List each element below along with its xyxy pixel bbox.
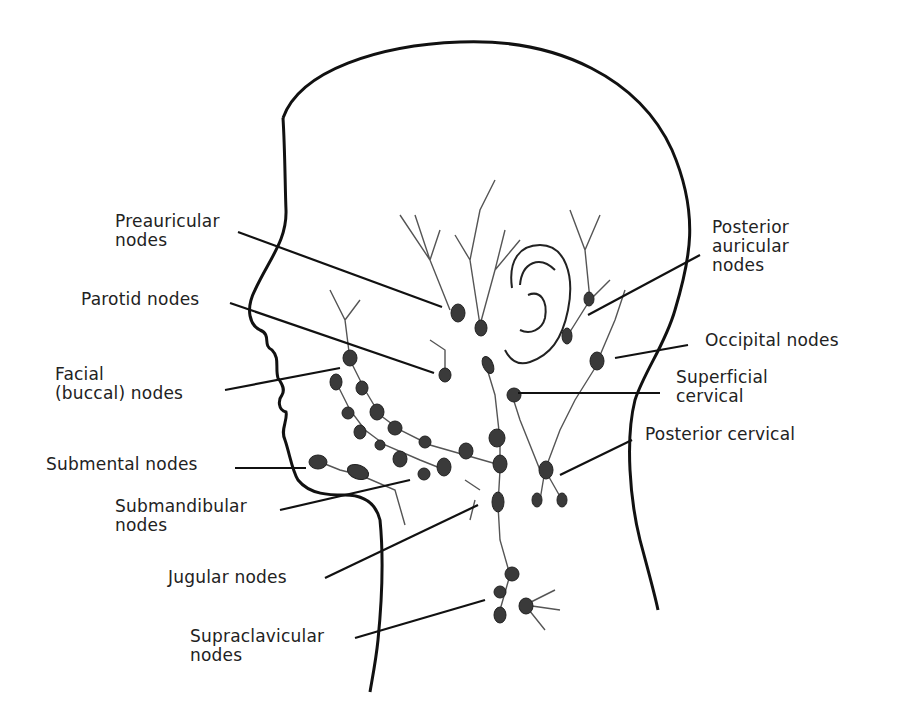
face-outline (250, 118, 383, 692)
label-facial-buccal-nodes: Facial (buccal) nodes (55, 365, 183, 403)
lymph-nodes (309, 292, 604, 623)
head-neck-illustration (0, 0, 903, 718)
label-submental-nodes: Submental nodes (46, 455, 198, 474)
label-submandibular-nodes: Submandibular nodes (115, 497, 247, 535)
label-posterior-cervical: Posterior cervical (645, 425, 795, 444)
label-occipital-nodes: Occipital nodes (705, 331, 839, 350)
label-parotid-nodes: Parotid nodes (81, 290, 199, 309)
label-jugular-nodes: Jugular nodes (168, 568, 287, 587)
label-superficial-cervical: Superficial cervical (676, 368, 768, 406)
label-posterior-auricular-nodes: Posterior auricular nodes (712, 218, 789, 275)
label-supraclavicular-nodes: Supraclavicular nodes (190, 627, 324, 665)
label-preauricular-nodes: Preauricular nodes (115, 212, 220, 250)
